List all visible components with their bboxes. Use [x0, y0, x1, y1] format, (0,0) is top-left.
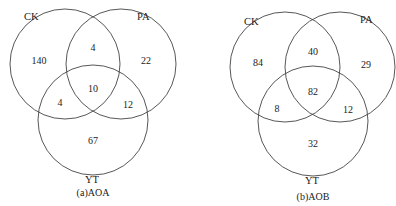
yt-circle [38, 65, 148, 175]
region-yt-only: 32 [308, 138, 318, 149]
region-pa-only: 22 [141, 55, 151, 66]
pa-label: PA [137, 11, 150, 22]
region-ck-yt: 4 [58, 97, 63, 108]
pa-label: PA [360, 14, 373, 25]
ck-circle [10, 9, 120, 119]
yt-label: YT [305, 175, 320, 186]
region-ck-pa: 40 [308, 46, 318, 57]
venn-diagram-aob: CK PA YT 84 40 29 82 8 12 32 (b)AOB [230, 12, 395, 203]
region-all: 10 [88, 83, 98, 94]
ck-label: CK [24, 11, 39, 22]
region-yt-only: 67 [88, 135, 98, 146]
ck-label: CK [244, 16, 259, 27]
region-pa-yt: 12 [123, 99, 133, 110]
caption-aob: (b)AOB [297, 191, 330, 203]
venn-figure: CK PA YT 140 4 22 10 4 12 67 (a)AOA CK P… [0, 0, 396, 206]
pa-circle [66, 9, 176, 119]
region-ck-only: 140 [32, 55, 47, 66]
region-ck-pa: 4 [91, 42, 96, 53]
venn-diagram-aoa: CK PA YT 140 4 22 10 4 12 67 (a)AOA [10, 9, 176, 199]
yt-label: YT [85, 174, 100, 185]
region-all: 82 [308, 86, 318, 97]
region-ck-yt: 8 [275, 103, 280, 114]
region-pa-only: 29 [361, 59, 371, 70]
region-ck-only: 84 [253, 57, 263, 68]
caption-aoa: (a)AOA [77, 187, 111, 199]
region-pa-yt: 12 [343, 104, 353, 115]
